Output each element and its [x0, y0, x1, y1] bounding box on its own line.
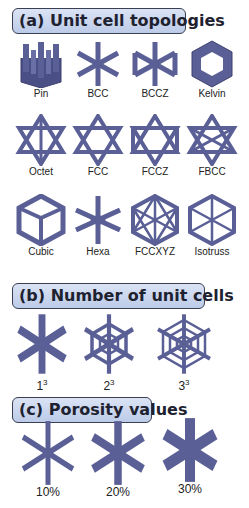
cell-count-label: 13 — [12, 376, 72, 393]
cell-count-1: 13 — [12, 312, 72, 393]
topology-bccz: BCCZ — [124, 40, 186, 99]
topology-label: BCC — [67, 88, 129, 99]
porosity-20-lattice-icon — [90, 420, 146, 486]
single-cell-lattice-icon — [16, 312, 68, 376]
octet-lattice-icon — [15, 114, 67, 166]
porosity-label: 20% — [88, 486, 148, 499]
pin-lattice-icon — [16, 40, 66, 88]
topology-label: Pin — [10, 88, 72, 99]
section-a-header: (a) Unit cell topologies — [12, 8, 186, 34]
topology-octet: Octet — [10, 114, 72, 177]
cell-count-label: 23 — [78, 376, 140, 393]
fccxyz-lattice-icon — [129, 194, 181, 246]
topology-label: FBCC — [181, 166, 243, 177]
bccz-lattice-icon — [130, 40, 180, 88]
porosity-label: 30% — [160, 483, 220, 496]
topology-isotruss: Isotruss — [181, 194, 243, 257]
topology-fccz: FCCZ — [124, 114, 186, 177]
two-cell-lattice-icon — [80, 312, 138, 376]
porosity-30: 30% — [160, 417, 220, 496]
fccz-lattice-icon — [129, 114, 181, 166]
topology-hexa: Hexa — [67, 194, 129, 257]
cell-count-3: 33 — [152, 312, 216, 393]
fcc-lattice-icon — [72, 114, 124, 166]
topology-label: FCCZ — [124, 166, 186, 177]
hexa-lattice-icon — [72, 194, 124, 246]
porosity-30-lattice-icon — [162, 417, 218, 483]
topology-label: BCCZ — [124, 88, 186, 99]
bcc-lattice-icon — [73, 40, 123, 88]
porosity-10-lattice-icon — [20, 420, 76, 486]
topology-cubic: Cubic — [10, 194, 72, 257]
kelvin-lattice-icon — [187, 40, 237, 88]
topology-fcc: FCC — [67, 114, 129, 177]
isotruss-lattice-icon — [186, 194, 238, 246]
topology-pin: Pin — [10, 40, 72, 99]
cropped-caption — [0, 503, 249, 508]
topology-label: FCCXYZ — [124, 246, 186, 257]
porosity-20: 20% — [88, 420, 148, 499]
cubic-lattice-icon — [15, 194, 67, 246]
topology-bcc: BCC — [67, 40, 129, 99]
porosity-label: 10% — [18, 486, 78, 499]
topology-label: Octet — [10, 166, 72, 177]
topology-label: Kelvin — [181, 88, 243, 99]
fbcc-lattice-icon — [186, 114, 238, 166]
topology-label: FCC — [67, 166, 129, 177]
topology-fbcc: FBCC — [181, 114, 243, 177]
cell-count-2: 23 — [78, 312, 140, 393]
topology-label: Isotruss — [181, 246, 243, 257]
topology-label: Cubic — [10, 246, 72, 257]
porosity-10: 10% — [18, 420, 78, 499]
topology-label: Hexa — [67, 246, 129, 257]
section-b-header: (b) Number of unit cells — [12, 283, 205, 309]
topology-fccxyz: FCCXYZ — [124, 194, 186, 257]
cell-count-label: 33 — [152, 376, 216, 393]
topology-kelvin: Kelvin — [181, 40, 243, 99]
three-cell-lattice-icon — [154, 312, 214, 376]
